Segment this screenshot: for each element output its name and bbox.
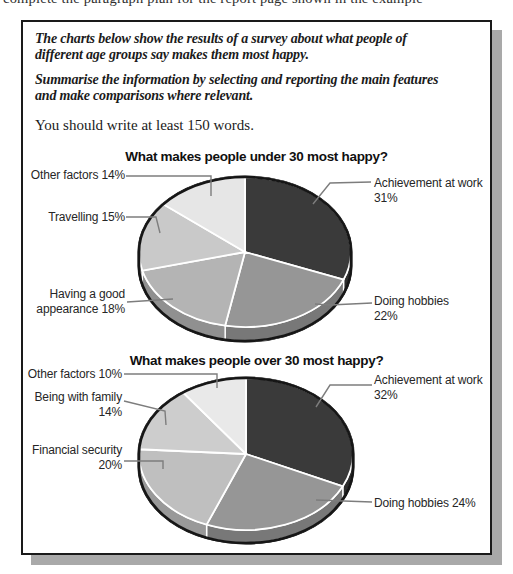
prompt-line: The charts below show the results of a s… (35, 31, 478, 47)
pie2-label-other-factors: Other factors 10% (15, 367, 122, 382)
chart-title-over-30: What makes people over 30 most happy? (21, 353, 492, 368)
label-text: Other factors 10% (15, 367, 122, 382)
label-text: 31% (374, 191, 483, 206)
label-text: appearance 18% (18, 302, 125, 317)
label-text: Other factors 14% (18, 168, 125, 183)
pie1-label-travelling: Travelling 15% (18, 210, 125, 225)
label-text: Doing hobbies 24% (374, 496, 476, 511)
pie2-label-financial-security: Financial security 20% (15, 443, 122, 473)
pie1-label-having-a-good-appearance: Having a good appearance 18% (18, 287, 125, 317)
pie2-label-being-with-family: Being with family 14% (15, 390, 122, 420)
word-count-note: You should write at least 150 words. (35, 116, 478, 134)
pie1-label-doing-hobbies: Doing hobbies 22% (374, 294, 449, 324)
pie2-label-doing-hobbies: Doing hobbies 24% (374, 496, 476, 511)
clipped-text-line: complete the paragraph plan for the repo… (3, 0, 487, 8)
clipped-text: complete the paragraph plan for the repo… (3, 0, 487, 7)
label-text: Achievement at work (374, 176, 483, 191)
label-text: Travelling 15% (18, 210, 125, 225)
label-text: Being with family (15, 390, 122, 405)
label-text: 32% (374, 388, 483, 403)
prompt-paragraph-2: Summarise the information by selecting a… (35, 72, 478, 104)
label-text: Achievement at work (374, 373, 483, 388)
prompt-line: and make comparisons where relevant. (35, 88, 478, 104)
label-text: Financial security (15, 443, 122, 458)
prompt-paragraph-1: The charts below show the results of a s… (35, 31, 478, 63)
prompt-line: different age groups say makes them most… (35, 47, 478, 63)
prompt-line: Summarise the information by selecting a… (35, 72, 478, 88)
pie1-label-other-factors: Other factors 14% (18, 168, 125, 183)
label-text: Having a good (18, 287, 125, 302)
label-text: 22% (374, 309, 449, 324)
pie1-label-achievement-at-work: Achievement at work 31% (374, 176, 483, 206)
label-text: 20% (15, 458, 122, 473)
label-text: Doing hobbies (374, 294, 449, 309)
pie2-label-achievement-at-work: Achievement at work 32% (374, 373, 483, 403)
label-text: 14% (15, 405, 122, 420)
chart-title-under-30: What makes people under 30 most happy? (21, 149, 492, 164)
